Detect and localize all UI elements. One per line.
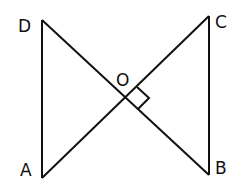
label-d: D xyxy=(18,18,31,35)
label-b: B xyxy=(215,160,227,177)
right-angle-marker xyxy=(137,87,149,109)
segment-bd xyxy=(42,20,209,175)
label-a: A xyxy=(20,162,32,179)
label-c: C xyxy=(215,14,227,31)
geometry-figure xyxy=(0,0,240,183)
label-o: O xyxy=(116,72,129,89)
